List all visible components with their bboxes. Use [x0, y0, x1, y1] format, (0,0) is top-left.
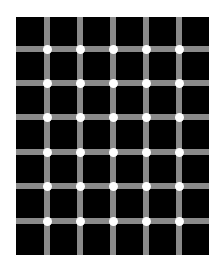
intersection-dot: [109, 217, 118, 226]
intersection-dot: [175, 217, 184, 226]
intersection-dot: [142, 148, 151, 157]
intersection-dot: [109, 79, 118, 88]
intersection-dot: [43, 113, 52, 122]
intersection-dot: [109, 182, 118, 191]
intersection-dot: [76, 182, 85, 191]
intersection-dot: [142, 79, 151, 88]
intersection-dot: [76, 217, 85, 226]
intersection-dot: [76, 45, 85, 54]
intersection-dot: [109, 45, 118, 54]
intersection-dot: [43, 182, 52, 191]
intersection-dot: [76, 113, 85, 122]
intersection-dot: [43, 217, 52, 226]
intersection-dot: [109, 113, 118, 122]
intersection-dot: [175, 182, 184, 191]
intersection-dot: [76, 148, 85, 157]
intersection-dot: [175, 45, 184, 54]
intersection-dot: [142, 182, 151, 191]
intersection-dot: [76, 79, 85, 88]
intersection-dot: [175, 148, 184, 157]
intersection-dot: [142, 217, 151, 226]
intersection-dot: [175, 79, 184, 88]
intersection-dot: [43, 45, 52, 54]
intersection-dot: [43, 148, 52, 157]
scintillating-grid: [16, 17, 209, 255]
intersection-dot: [142, 113, 151, 122]
intersection-dot: [142, 45, 151, 54]
intersection-dot: [43, 79, 52, 88]
intersection-dot: [109, 148, 118, 157]
intersection-dot: [175, 113, 184, 122]
